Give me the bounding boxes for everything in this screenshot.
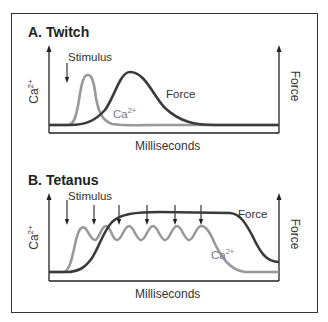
tetanus-force-curve-label: Force [238,208,267,220]
tetanus-left-axis-label: Ca2+ [26,225,41,249]
twitch-ca-curve [49,75,279,125]
stimulus-arrow-icon [117,205,121,225]
twitch-stimulus-label: Stimulus [68,51,112,63]
tetanus-stimulus-label: Stimulus [68,190,112,202]
diagram-canvas [0,0,328,322]
twitch-right-axis-label: Force [288,71,302,102]
stimulus-arrow-icon [145,205,149,225]
twitch-left-axis-label: Ca2+ [26,79,41,103]
twitch-force-curve-label: Force [166,88,195,100]
tetanus-x-axis-label: Milliseconds [135,287,200,301]
twitch-x-axis-label: Milliseconds [135,139,200,153]
twitch-title: A. Twitch [28,24,89,40]
twitch-right-axis-arrow-icon [277,45,282,52]
tetanus-left-axis-arrow-icon [47,193,52,200]
stimulus-arrow-icon [199,205,203,225]
tetanus-title: B. Tetanus [28,172,99,188]
twitch-stimulus-arrow-icon [65,63,69,83]
stimulus-arrow-icon [92,205,96,225]
tetanus-force-curve [49,212,279,272]
twitch-ca-curve-label: Ca2+ [113,106,136,120]
tetanus-ca-curve-label: Ca2+ [211,247,234,261]
tetanus-ca-curve [49,226,279,272]
tetanus-right-axis-label: Force [288,219,302,250]
twitch-left-axis-arrow-icon [47,45,52,52]
stimulus-arrow-icon [173,205,177,225]
tetanus-right-axis-arrow-icon [277,193,282,200]
stimulus-arrow-icon [65,200,69,225]
